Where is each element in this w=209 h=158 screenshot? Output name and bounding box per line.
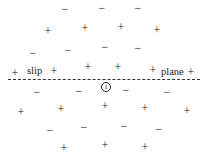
plus-charge-symbol: + [45,25,52,37]
plus-charge-symbol: + [188,66,195,78]
plus-charge-symbol: + [102,100,109,112]
plane-label: plane [161,67,184,78]
dislocation-marker: 1 [101,82,111,92]
minus-charge-symbol: − [164,86,171,98]
plus-charge-symbol: + [118,21,125,33]
plus-charge-symbol: + [85,61,92,73]
plus-charge-symbol: + [142,141,149,153]
minus-charge-symbol: − [102,41,109,53]
plus-charge-symbol: + [12,67,19,79]
minus-charge-symbol: − [156,123,163,135]
plus-charge-symbol: + [82,22,89,34]
plus-charge-symbol: + [115,61,122,73]
plus-charge-symbol: + [142,102,149,114]
plus-charge-symbol: + [51,65,58,77]
minus-charge-symbol: − [81,121,88,133]
minus-charge-symbol: − [47,124,54,136]
minus-charge-symbol: − [65,44,72,56]
plus-charge-symbol: + [61,142,68,154]
minus-charge-symbol: − [99,2,106,14]
minus-charge-symbol: − [34,86,41,98]
minus-charge-symbol: − [121,120,128,132]
minus-charge-symbol: − [76,85,83,97]
plus-charge-symbol: + [184,105,191,117]
plus-charge-symbol: + [58,103,65,115]
plus-charge-symbol: + [150,64,157,76]
plus-charge-symbol: + [154,24,161,36]
minus-charge-symbol: − [135,2,142,14]
minus-charge-symbol: − [123,84,130,96]
minus-charge-symbol: − [62,3,69,15]
slip-plane-line [8,79,200,80]
minus-charge-symbol: − [135,42,142,54]
minus-charge-symbol: − [30,47,37,59]
slip-label: slip [27,66,42,77]
plus-charge-symbol: + [18,106,25,118]
plus-charge-symbol: + [102,139,109,151]
